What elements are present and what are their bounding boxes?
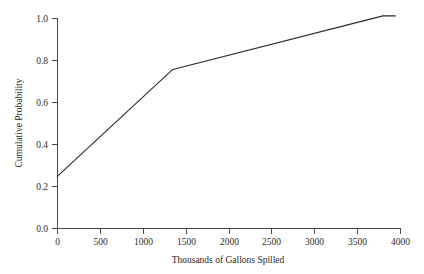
cumulative-probability-line-chart: 0.00.20.40.60.81.0 050010001500200025003…: [0, 0, 424, 274]
x-axis-title: Thousands of Gallons Spilled: [172, 255, 285, 265]
y-tick-label-0.6: 0.6: [36, 98, 48, 108]
x-tick-label-500: 500: [93, 237, 108, 247]
x-tick-label-3000: 3000: [305, 237, 324, 247]
x-tick-label-1500: 1500: [177, 237, 196, 247]
y-tick-label-0.0: 0.0: [36, 224, 48, 234]
chart-background: [0, 0, 424, 274]
x-tick-label-2500: 2500: [262, 237, 281, 247]
y-tick-label-0.2: 0.2: [36, 182, 48, 192]
y-axis-title: Cumulative Probability: [14, 78, 24, 167]
x-tick-label-4000: 4000: [391, 237, 410, 247]
chart-container: 0.00.20.40.60.81.0 050010001500200025003…: [0, 0, 424, 274]
x-tick-label-2000: 2000: [220, 237, 239, 247]
y-tick-label-0.4: 0.4: [36, 140, 48, 150]
x-tick-label-1000: 1000: [134, 237, 153, 247]
x-tick-label-3500: 3500: [348, 237, 367, 247]
y-tick-label-1.0: 1.0: [36, 14, 48, 24]
y-tick-label-0.8: 0.8: [36, 56, 48, 66]
x-tick-label-0: 0: [55, 237, 60, 247]
